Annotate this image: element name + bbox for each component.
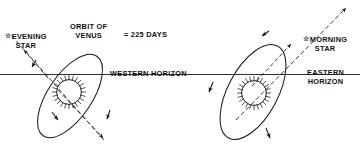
- venus-orbit-ellipse-west: [25, 44, 115, 148]
- eastern-horizon-line2: HORIZON: [307, 78, 344, 87]
- orbit-label-line1: ORBIT OF: [70, 22, 107, 31]
- evening-star-line2: STAR: [5, 42, 47, 51]
- orbit-period-value: = 225 DAYS: [124, 30, 167, 39]
- sightline-morning-star: [236, 8, 346, 120]
- eastern-horizon-label: EASTERN HORIZON: [307, 69, 344, 86]
- evening-star-line1: EVENING: [12, 32, 47, 41]
- morning-star-line2: STAR: [303, 45, 347, 54]
- eastern-horizon-line1: EASTERN: [307, 68, 344, 77]
- sightline-arrow-east-inner: [252, 44, 291, 86]
- morning-star-label: ☆MORNING STAR: [303, 36, 347, 53]
- orbit-label-line2: VENUS: [70, 32, 107, 41]
- western-horizon-label: WESTERN HORIZON: [110, 70, 187, 79]
- sun-symbol-east: [237, 76, 270, 109]
- evening-star-label: ☆EVENING STAR: [5, 33, 47, 50]
- venus-orbit-ellipse-east: [207, 34, 300, 149]
- sun-symbol-west: [52, 75, 85, 108]
- star-icon-morning: ☆: [303, 35, 309, 42]
- star-icon-evening: ☆: [5, 32, 11, 39]
- diagram-canvas: ☆EVENING STAR ☆MORNING STAR ORBIT OF VEN…: [0, 0, 360, 161]
- orbit-of-venus-label: ORBIT OF VENUS: [70, 23, 107, 40]
- morning-star-line1: MORNING: [310, 35, 347, 44]
- orbit-diagram-svg: [0, 0, 360, 161]
- west-system: [10, 34, 115, 148]
